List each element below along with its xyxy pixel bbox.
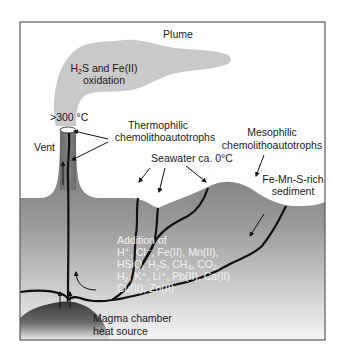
temperature-label: >300 °C: [50, 111, 89, 123]
chimney-opening: [60, 127, 76, 133]
thermophilic-label-line1: Thermophilic: [128, 119, 188, 131]
sediment-label-line2: sediment: [272, 185, 315, 197]
diagram-canvas: Plume H2S and Fe(II) oxidation >300 °C V…: [0, 0, 342, 355]
addition-line1: H⁺, Cl⁻, Fe(II), Mn(II),: [117, 246, 219, 258]
magma-label-line1: Magma chamber: [93, 312, 172, 324]
vent-conduit: [68, 133, 69, 300]
magma-label-line2: heat source: [93, 325, 148, 337]
addition-title: Addition of: [117, 234, 167, 246]
plume-label: Plume: [163, 28, 193, 40]
thermophilic-label-line2: chemolithoautotrophs: [115, 131, 215, 143]
seawater-label: Seawater ca. 0°C: [151, 152, 233, 164]
plume-process-label-line2: oxidation: [83, 74, 125, 86]
mesophilic-label-line2: chemolithoautotrophs: [222, 139, 322, 151]
hydrothermal-vent-diagram: Plume H2S and Fe(II) oxidation >300 °C V…: [0, 0, 342, 355]
addition-line4: Cu(II), Zn(II): [117, 282, 174, 294]
vent-label: Vent: [34, 141, 55, 153]
mesophilic-label-line1: Mesophilic: [247, 126, 297, 138]
sediment-label-line1: Fe-Mn-S-rich: [262, 173, 323, 185]
